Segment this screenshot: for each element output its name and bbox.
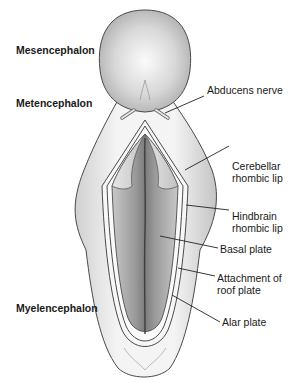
label-cerebellar-rhombic-lip: Cerebellar rhombic lip — [232, 160, 283, 184]
label-hindbrain-line2: rhombic lip — [232, 222, 283, 234]
label-myelencephalon: Myelencephalon — [16, 302, 98, 314]
label-basal-plate: Basal plate — [220, 243, 272, 255]
label-attachment-line2: roof plate — [217, 284, 282, 296]
label-abducens-line1: Abducens nerve — [207, 84, 283, 96]
label-alar-line1: Alar plate — [222, 316, 266, 328]
label-cerebellar-line1: Cerebellar — [232, 160, 283, 172]
label-hindbrain-rhombic-lip: Hindbrain rhombic lip — [232, 210, 283, 234]
diagram-canvas: Mesencephalon Metencephalon Myelencephal… — [0, 0, 292, 385]
label-cerebellar-line2: rhombic lip — [232, 172, 283, 184]
label-attachment-line1: Attachment of — [217, 272, 282, 284]
median-sulcus — [145, 138, 146, 334]
label-abducens-nerve: Abducens nerve — [207, 84, 283, 96]
label-attachment-of-roof-plate: Attachment of roof plate — [217, 272, 282, 296]
label-mesencephalon: Mesencephalon — [16, 44, 95, 56]
label-hindbrain-line1: Hindbrain — [232, 210, 283, 222]
label-alar-plate: Alar plate — [222, 316, 266, 328]
label-basal-line1: Basal plate — [220, 243, 272, 255]
mesencephalon-bulb — [99, 10, 190, 112]
label-metencephalon: Metencephalon — [16, 97, 92, 109]
